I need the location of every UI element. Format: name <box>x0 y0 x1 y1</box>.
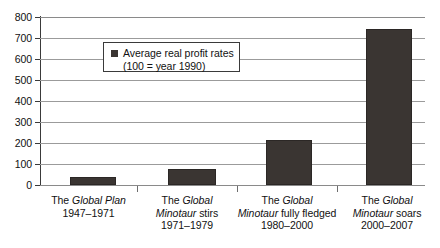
bar-global-plan <box>70 177 116 185</box>
y-tick-label-400: 400 <box>2 96 32 106</box>
y-tick-label-800: 800 <box>2 12 32 22</box>
cat1-line2-italic: Minotaur <box>156 207 196 219</box>
category-label-line2: Minotaur stirs <box>137 207 237 220</box>
cat0-line1-italic: Global Plan <box>72 194 126 206</box>
category-label-line1: The Global Plan <box>40 194 137 207</box>
legend-text-block: Average real profit rates (100 = year 19… <box>123 47 234 72</box>
category-label-line2: Minotaur soars <box>337 207 437 220</box>
cat2-line2-italic: Minotaur <box>238 207 278 219</box>
cat0-line1-pre: The <box>51 194 72 206</box>
category-label-line2: 1947–1971 <box>40 207 137 220</box>
bar-global-minotaur-soars <box>366 29 412 185</box>
y-tick-label-200: 200 <box>2 138 32 148</box>
chart-legend: Average real profit rates (100 = year 19… <box>103 42 240 72</box>
bar-global-minotaur-fully-fledged <box>266 140 312 185</box>
y-tick-label-500: 500 <box>2 75 32 85</box>
cat1-line1-pre: The <box>162 194 183 206</box>
y-tick-label-600: 600 <box>2 54 32 64</box>
cat2-line2-post: fully fledged <box>278 207 336 219</box>
y-tick-label-0: 0 <box>2 180 32 190</box>
category-label-line1: The Global <box>137 194 237 207</box>
cat3-line1-italic: Global <box>382 194 412 206</box>
square-marker-icon <box>111 50 118 57</box>
category-label-line1: The Global <box>237 194 337 207</box>
category-label-line3: 1980–2000 <box>237 219 337 232</box>
category-label-line2: Minotaur fully fledged <box>237 207 337 220</box>
cat2-line1-pre: The <box>262 194 283 206</box>
legend-label-line2: (100 = year 1990) <box>123 60 205 72</box>
bar-chart: 800 700 600 500 400 300 200 100 0 <box>0 0 440 248</box>
category-label-global-minotaur-fully-fledged: The Global Minotaur fully fledged 1980–2… <box>237 194 337 232</box>
category-label-global-minotaur-soars: The Global Minotaur soars 2000–2007 <box>337 194 437 232</box>
bar-global-minotaur-stirs <box>168 169 216 185</box>
category-label-line3: 1971–1979 <box>137 219 237 232</box>
gridline-baseline-0 <box>40 185 425 186</box>
gridline-800 <box>40 17 425 18</box>
cat3-line2-post: soars <box>393 207 421 219</box>
legend-label-line1: Average real profit rates <box>123 47 234 59</box>
cat3-line1-pre: The <box>362 194 383 206</box>
y-tick-label-700: 700 <box>2 33 32 43</box>
category-label-global-plan: The Global Plan 1947–1971 <box>40 194 137 219</box>
cat1-line2-post: stirs <box>196 207 218 219</box>
x-tick-separator-2 <box>237 186 238 192</box>
y-tick-label-300: 300 <box>2 117 32 127</box>
cat1-line1-italic: Global <box>182 194 212 206</box>
cat3-line2-italic: Minotaur <box>353 207 393 219</box>
y-tick-label-100: 100 <box>2 159 32 169</box>
y-axis-labels: 800 700 600 500 400 300 200 100 0 <box>0 0 32 248</box>
x-axis-category-labels: The Global Plan 1947–1971 The Global Min… <box>40 194 425 248</box>
x-tick-separator-3 <box>337 186 338 192</box>
cat2-line1-italic: Global <box>282 194 312 206</box>
category-label-line3: 2000–2007 <box>337 219 437 232</box>
category-label-global-minotaur-stirs: The Global Minotaur stirs 1971–1979 <box>137 194 237 232</box>
legend-entry: Average real profit rates (100 = year 19… <box>111 47 234 72</box>
x-tick-separator-1 <box>137 186 138 192</box>
category-label-line1: The Global <box>337 194 437 207</box>
